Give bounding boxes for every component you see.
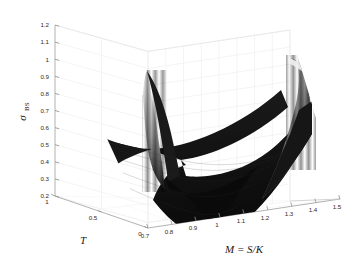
- z-axis-label-subscript: BS: [23, 102, 31, 111]
- z-tick-label: 0.3: [40, 175, 49, 182]
- x-tick-label: 1.4: [309, 206, 318, 213]
- x-tick-label: 1.1: [237, 217, 246, 224]
- x-tick-label: 0.9: [189, 224, 198, 231]
- surface-left-wing: [56, 130, 152, 190]
- x-tick-label: 1.3: [285, 210, 294, 217]
- z-tick-label: 0.7: [40, 107, 49, 114]
- z-tick-label: 0.5: [40, 141, 49, 148]
- z-tick-labels: 1.2 1.1 1 0.9 0.8 0.7 0.6 0.5 0.4 0.3 0.…: [40, 21, 49, 199]
- t-tick-label: 0: [138, 230, 142, 237]
- surface-bowl: [57, 90, 307, 247]
- z-tick-label: 1: [46, 56, 50, 63]
- t-axis-label: T: [80, 234, 87, 246]
- t-tick-labels: 1 0.5 0: [45, 198, 142, 237]
- z-tick-label: 0.8: [40, 90, 49, 97]
- x-tick-label: 1: [215, 221, 219, 228]
- z-tick-label: 1.1: [40, 38, 49, 45]
- z-tick-label: 0.4: [40, 158, 49, 165]
- t-tick-label: 1: [45, 198, 49, 205]
- x-tick-label: 0.7: [141, 232, 150, 239]
- surface-plot-3d: 1.2 1.1 1 0.9 0.8 0.7 0.6 0.5 0.4 0.3 0.…: [0, 0, 359, 270]
- x-tick-label: 0.8: [165, 228, 174, 235]
- x-tick-label: 1.5: [333, 203, 342, 210]
- x-axis-label: M = S/K: [224, 243, 264, 255]
- z-axis-ticks: [55, 25, 59, 197]
- z-tick-label: 0.9: [40, 73, 49, 80]
- x-tick-label: 1.2: [261, 214, 270, 221]
- z-axis-label-sigma: σ: [16, 115, 28, 121]
- z-tick-label: 0.6: [40, 124, 49, 131]
- t-tick-label: 0.5: [89, 214, 98, 221]
- z-tick-label: 1.2: [40, 21, 49, 28]
- figure-canvas: 1.2 1.1 1 0.9 0.8 0.7 0.6 0.5 0.4 0.3 0.…: [0, 0, 359, 270]
- z-axis-label: σ BS: [16, 102, 31, 120]
